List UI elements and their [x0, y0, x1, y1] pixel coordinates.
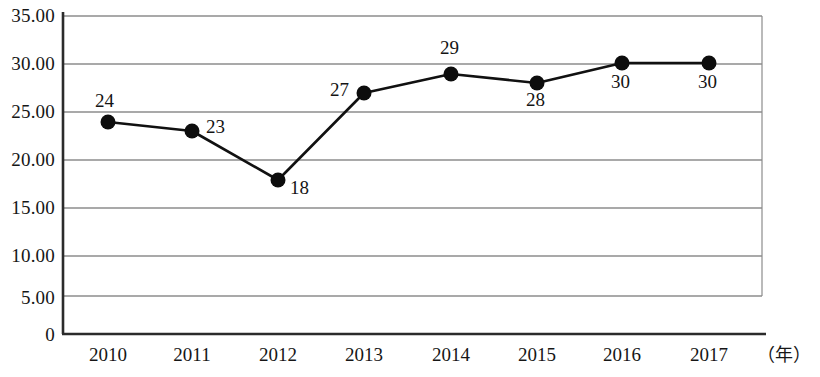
x-axis-tick-2012: 2012 — [238, 345, 318, 364]
y-axis-tick-5: 5.00 — [0, 288, 55, 307]
x-axis-tick-2016: 2016 — [582, 345, 662, 364]
data-label-2013: 27 — [330, 80, 349, 99]
chart-axes — [62, 12, 766, 334]
chart-canvas — [0, 0, 820, 377]
x-axis-tick-2014: 2014 — [411, 345, 491, 364]
data-point — [702, 56, 717, 71]
data-point — [271, 173, 286, 188]
x-axis-tick-2015: 2015 — [497, 345, 577, 364]
data-label-2014: 29 — [440, 38, 459, 57]
y-axis-tick-25: 25.00 — [0, 102, 55, 121]
y-axis-tick-0: 0 — [0, 325, 55, 344]
data-point — [357, 86, 372, 101]
x-axis-tick-2017: 2017 — [669, 345, 749, 364]
y-axis-tick-35: 35.00 — [0, 6, 55, 25]
y-axis-tick-15: 15.00 — [0, 198, 55, 217]
line-chart: 35.00 30.00 25.00 20.00 15.00 10.00 5.00… — [0, 0, 820, 377]
y-axis-tick-30: 30.00 — [0, 54, 55, 73]
data-label-2017: 30 — [698, 72, 717, 91]
x-axis-tick-2010: 2010 — [68, 345, 148, 364]
x-axis-unit-label: （年） — [757, 346, 811, 364]
data-label-2015: 28 — [526, 90, 545, 109]
data-label-2011: 23 — [206, 117, 225, 136]
x-axis-tick-2013: 2013 — [324, 345, 404, 364]
data-point — [444, 67, 459, 82]
y-axis-tick-20: 20.00 — [0, 150, 55, 169]
data-point — [101, 115, 116, 130]
y-axis-tick-10: 10.00 — [0, 246, 55, 265]
grid-lines — [63, 16, 762, 296]
data-point — [615, 56, 630, 71]
data-label-2016: 30 — [611, 72, 630, 91]
x-axis-tick-2011: 2011 — [152, 345, 232, 364]
data-label-2012: 18 — [290, 178, 309, 197]
data-point — [185, 124, 200, 139]
data-label-2010: 24 — [95, 91, 114, 110]
